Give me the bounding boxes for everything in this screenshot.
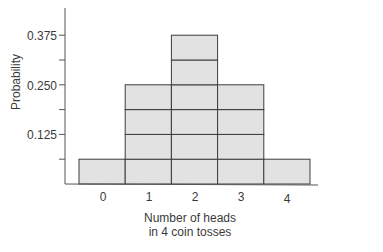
bar-2-segment [171, 159, 217, 184]
bar-2-segment [171, 85, 217, 110]
y-ticks [59, 35, 65, 159]
x-axis-label-line-2: in 4 coin tosses [110, 225, 270, 239]
bar-3-segment [218, 85, 264, 110]
bar-1-segment [125, 159, 171, 184]
bar-2-segment [171, 35, 217, 60]
x-tick-label-3: 3 [231, 190, 251, 204]
y-tick-label-0.250: 0.250 [27, 79, 57, 93]
bar-2-segment [171, 60, 217, 85]
bar-0-segment [79, 159, 125, 184]
x-tick-label-1: 1 [139, 190, 159, 204]
bar-3-segment [218, 134, 264, 159]
x-tick-label-4: 4 [277, 192, 297, 206]
bar-4-segment [264, 159, 310, 184]
bar-1-segment [125, 134, 171, 159]
y-axis-label: Probability [9, 47, 23, 117]
x-axis-label-line-1: Number of heads [110, 211, 270, 225]
bar-1-segment [125, 110, 171, 135]
bar-2-segment [171, 110, 217, 135]
bars-group [79, 35, 310, 184]
x-axis-label: Number of heads in 4 coin tosses [110, 211, 270, 239]
bar-3-segment [218, 159, 264, 184]
bar-1-segment [125, 85, 171, 110]
x-tick-label-0: 0 [93, 190, 113, 204]
y-tick-label-0.125: 0.125 [27, 128, 57, 142]
bar-2-segment [171, 134, 217, 159]
x-tick-label-2: 2 [185, 190, 205, 204]
bar-3-segment [218, 110, 264, 135]
y-tick-label-0.375: 0.375 [27, 29, 57, 43]
